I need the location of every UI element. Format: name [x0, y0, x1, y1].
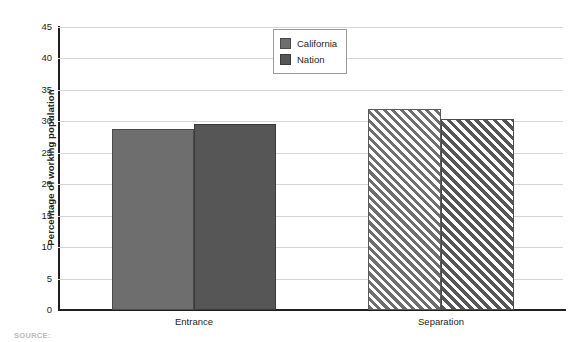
gridline	[58, 27, 563, 28]
bar-entrance-nation	[194, 124, 276, 310]
legend-label-california: California	[297, 38, 337, 49]
legend-item-nation: Nation	[280, 52, 337, 67]
y-tick-label: 20	[24, 179, 52, 189]
y-tick-label: 25	[24, 148, 52, 158]
legend-label-nation: Nation	[297, 54, 324, 65]
y-tick-label: 15	[24, 211, 52, 221]
legend-swatch-nation	[280, 54, 291, 65]
legend: California Nation	[273, 29, 347, 74]
y-tick: 35	[20, 85, 52, 95]
legend-item-california: California	[280, 36, 337, 51]
y-tick-label: 30	[24, 116, 52, 126]
y-tick: 45	[20, 22, 52, 32]
y-tick-label: 0	[24, 305, 52, 315]
y-tick: 20	[20, 179, 52, 189]
y-tick-label: 35	[24, 85, 52, 95]
bar-chart: Percentage of working population 0510152…	[0, 0, 577, 342]
y-tick: 25	[20, 148, 52, 158]
y-tick: 0	[20, 305, 52, 315]
bar-separation-california	[368, 109, 441, 310]
legend-swatch-california	[280, 38, 291, 49]
x-tick-label-entrance: Entrance	[134, 316, 254, 327]
x-tick-label-separation: Separation	[381, 316, 501, 327]
y-tick: 30	[20, 116, 52, 126]
y-tick: 10	[20, 242, 52, 252]
y-tick-label: 40	[24, 53, 52, 63]
y-tick: 40	[20, 53, 52, 63]
y-tick: 15	[20, 211, 52, 221]
gridline	[58, 90, 563, 91]
source-note: SOURCE:	[14, 331, 51, 340]
y-tick-label: 10	[24, 242, 52, 252]
bar-separation-nation	[441, 119, 514, 310]
y-tick: 5	[20, 274, 52, 284]
y-axis-title: Percentage of working population	[45, 38, 56, 298]
bar-entrance-california	[112, 129, 194, 310]
y-tick-label: 5	[24, 274, 52, 284]
y-tick-label: 45	[24, 22, 52, 32]
